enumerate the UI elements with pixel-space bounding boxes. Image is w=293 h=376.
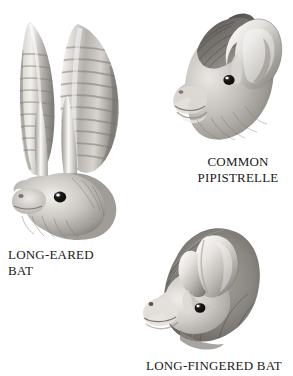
caption-common-pipistrelle: COMMON PIPISTRELLE [186, 154, 290, 186]
illustration-plate: LONG-EARED BAT COMMON PIPISTRELLE LONG-F… [0, 0, 293, 376]
figure-common-pipistrelle [167, 8, 289, 150]
figure-long-fingered-bat [136, 214, 268, 352]
pipistrelle-eye [223, 75, 234, 85]
caption-long-fingered-bat: LONG-FINGERED BAT [146, 358, 282, 374]
caption-long-eared-bat: LONG-EARED BAT [8, 247, 94, 279]
long-eared-bat-eye [54, 192, 66, 203]
figure-long-eared-bat [8, 10, 136, 242]
long-eared-bat-head [12, 173, 116, 240]
long-fingered-bat-eye [195, 303, 206, 313]
